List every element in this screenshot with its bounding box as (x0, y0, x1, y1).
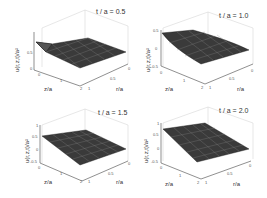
x-axis-label: z/a (165, 181, 173, 187)
y-tick: 0.5 (229, 76, 235, 81)
z-tick: 1 (36, 123, 38, 128)
x-tick: 0 (160, 165, 162, 170)
y-axis-label: r/a (116, 86, 123, 92)
x-tick: 2 (197, 180, 199, 185)
x-tick: 2 (80, 179, 82, 184)
z-tick: 0.5 (32, 134, 38, 139)
x-tick: 0 (160, 70, 162, 75)
z-tick: 1 (157, 121, 159, 126)
z-tick: -0.5 (30, 159, 37, 164)
z-tick: 0 (36, 147, 38, 152)
y-axis-label: r/a (116, 179, 123, 185)
y-axis-label: r/a (233, 181, 240, 187)
surface-plot-t05: t / a = 0.5 u(r,z,t)/a² z/a r/a 0.5 0 0 … (0, 0, 133, 99)
z-tick: 0 (157, 146, 159, 151)
z-tick: 0 (30, 66, 32, 71)
x-tick: 0 (38, 165, 40, 170)
x-tick: 0 (38, 72, 40, 77)
surface-plot-t20: t / a = 2.0 u(r,z,t)/a² z/a r/a 1 0.5 0 … (133, 99, 266, 198)
y-tick: 0.5 (108, 171, 114, 176)
z-tick: 0.5 (27, 50, 33, 55)
x-tick: 2 (201, 85, 203, 90)
y-tick: 0 (249, 163, 251, 168)
z-tick: -0.5 (151, 159, 158, 164)
y-tick: 1 (88, 86, 90, 91)
z-axis-label: u(r,z,t)/a² (143, 139, 149, 163)
y-axis-label: r/a (237, 86, 244, 92)
z-tick: 0 (155, 46, 157, 51)
x-tick: 1 (60, 78, 62, 83)
y-tick: 0 (251, 68, 253, 73)
x-tick: 1 (179, 173, 181, 178)
y-tick: 1 (88, 179, 90, 184)
plot-title: t / a = 1.0 (219, 12, 248, 19)
surface-plot-t15: t / a = 1.5 u(r,z,t)/a² z/a r/a 1 0.5 0 … (0, 99, 133, 198)
x-axis-label: z/a (165, 86, 173, 92)
z-tick: 0.5 (153, 132, 159, 137)
y-tick: 1 (205, 180, 207, 185)
z-tick: 0.5 (153, 28, 159, 33)
plot-title: t / a = 0.5 (96, 8, 125, 15)
plot-title: t / a = 1.5 (98, 109, 127, 116)
surface-plot-t10: t / a = 1.0 u(r,z,t)/a² z/a r/a 0.5 0 -0… (133, 0, 266, 99)
x-axis-label: z/a (44, 179, 52, 185)
x-tick: 1 (60, 171, 62, 176)
y-tick: 0.5 (227, 171, 233, 176)
y-tick: 0 (128, 66, 130, 71)
x-tick: 1 (183, 78, 185, 83)
y-tick: 1 (209, 85, 211, 90)
z-tick: -0.5 (151, 64, 158, 69)
y-tick: 0 (128, 161, 130, 166)
y-tick: 0.5 (110, 76, 116, 81)
z-axis-label: u(r,z,t)/a² (14, 48, 20, 72)
plot-title: t / a = 2.0 (219, 107, 248, 114)
x-axis-label: z/a (44, 86, 52, 92)
x-tick: 2 (80, 86, 82, 91)
